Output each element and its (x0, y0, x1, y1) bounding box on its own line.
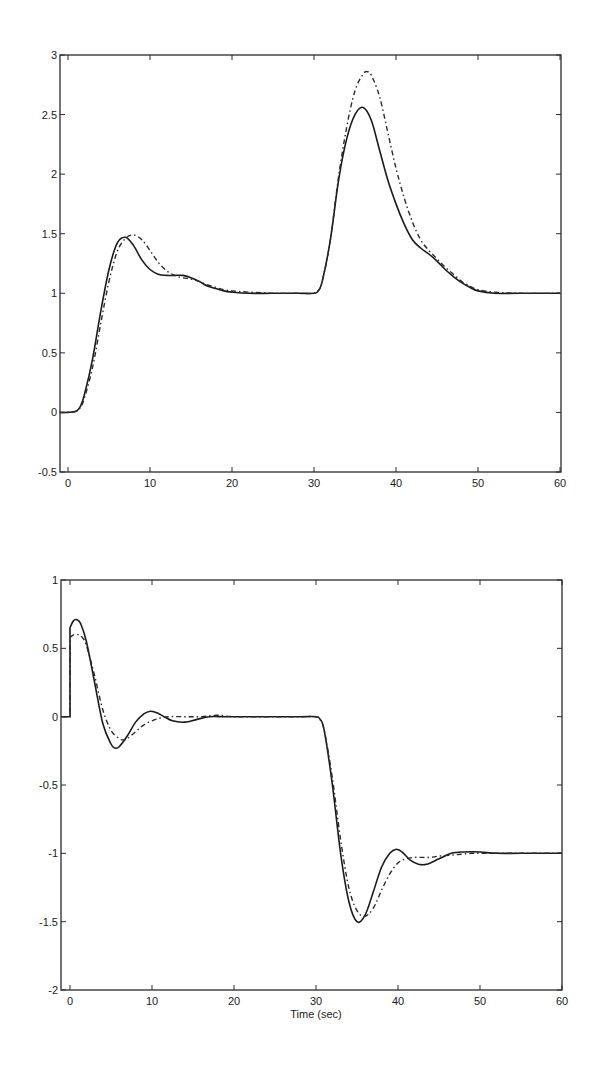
y-tick-label: 0.5 (42, 347, 57, 359)
y-tick-label: 0.5 (43, 642, 58, 654)
x-tick-label: 60 (554, 477, 566, 489)
series-dash-dot-line (62, 634, 562, 916)
x-tick-label: 20 (228, 995, 240, 1007)
x-tick-label: 40 (392, 995, 404, 1007)
y-tick-label: 1 (51, 287, 57, 299)
axes-frame (61, 580, 562, 990)
x-tick-label: 30 (310, 995, 322, 1007)
series-solid-line (60, 107, 560, 412)
y-tick-label: -0.5 (38, 466, 57, 478)
x-tick-label: 50 (474, 995, 486, 1007)
bottom-plot: 0102030405060-2-1.5-1-0.500.51Time (sec) (39, 574, 568, 1020)
y-tick-label: 3 (51, 49, 57, 61)
x-axis-label: Time (sec) (290, 1008, 342, 1020)
y-tick-label: -0.5 (39, 779, 58, 791)
y-tick-label: -1.5 (39, 916, 58, 928)
axes-frame (60, 55, 561, 472)
x-tick-label: 60 (556, 995, 568, 1007)
x-tick-label: 10 (146, 995, 158, 1007)
x-tick-label: 10 (144, 477, 156, 489)
x-tick-label: 20 (226, 477, 238, 489)
y-tick-label: 1 (52, 574, 58, 586)
y-tick-label: 2.5 (42, 109, 57, 121)
y-tick-label: 2 (51, 168, 57, 180)
figure: 0102030405060-0.500.511.522.53 010203040… (0, 0, 597, 1073)
top-plot: 0102030405060-0.500.511.522.53 (38, 49, 566, 489)
y-tick-label: 1.5 (42, 228, 57, 240)
y-tick-label: -1 (48, 847, 58, 859)
x-tick-label: 0 (65, 477, 71, 489)
y-tick-label: 0 (52, 711, 58, 723)
x-tick-label: 40 (390, 477, 402, 489)
x-tick-label: 30 (308, 477, 320, 489)
y-tick-label: -2 (48, 984, 58, 996)
series-dash-dot-line (60, 72, 560, 413)
x-tick-label: 0 (67, 995, 73, 1007)
x-tick-label: 50 (472, 477, 484, 489)
series-solid-line (62, 619, 562, 922)
y-tick-label: 0 (51, 406, 57, 418)
